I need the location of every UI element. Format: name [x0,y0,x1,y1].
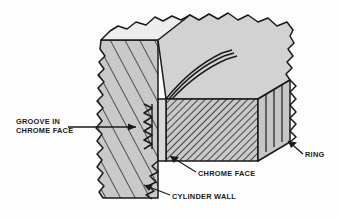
label-cylinder-wall: CYLINDER WALL [172,192,236,201]
leader-line-ring [288,141,303,154]
label-ring: RING [305,150,324,159]
chrome-face-strip [158,99,166,161]
piston-ring-cutaway-figure: GROOVE IN CHROME FACE CHROME FACE CYLIND… [0,0,338,218]
label-groove-in-chrome-face: GROOVE IN CHROME FACE [16,117,73,136]
cutaway-drawing [0,0,338,218]
label-chrome-face: CHROME FACE [198,169,255,178]
ring-torn-edge [290,80,296,142]
ring-cross-section [166,99,258,161]
